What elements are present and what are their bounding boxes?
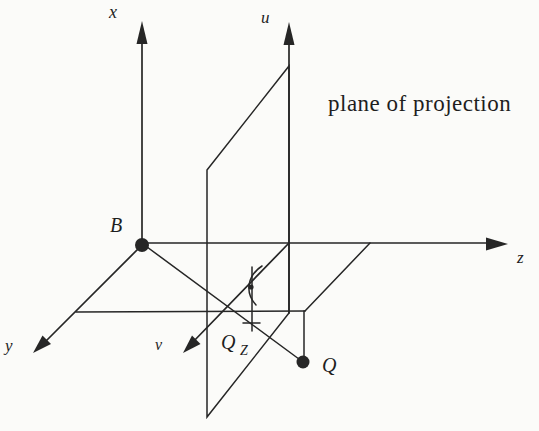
ground-plane-front-edge <box>76 311 305 312</box>
point-q-label: Q <box>322 354 337 376</box>
projection-diagram: x u z y v B Q Q Z plane of projection <box>0 0 539 431</box>
point-qz-label: Q <box>221 331 236 353</box>
right-angle-dot <box>248 284 253 289</box>
z-axis-label: z <box>516 248 524 267</box>
x-axis-label: x <box>108 2 117 22</box>
y-axis-line <box>42 244 143 345</box>
u-axis-arrowhead <box>284 22 295 45</box>
point-b-dot <box>135 238 149 252</box>
point-b-label: B <box>110 214 122 236</box>
u-axis-label: u <box>261 8 270 27</box>
point-qz-subscript: Z <box>240 343 248 358</box>
z-axis-arrowhead <box>486 238 508 251</box>
plane-of-projection-caption: plane of projection <box>328 91 511 116</box>
diagram-canvas: x u z y v B Q Q Z plane of projection <box>0 0 539 431</box>
v-axis-label: v <box>155 336 163 353</box>
x-axis-arrowhead <box>137 21 148 44</box>
projection-plane-outline <box>207 66 289 417</box>
ground-plane-right-edge <box>305 243 370 311</box>
point-q-dot <box>297 356 310 369</box>
y-axis-label: y <box>3 336 13 355</box>
